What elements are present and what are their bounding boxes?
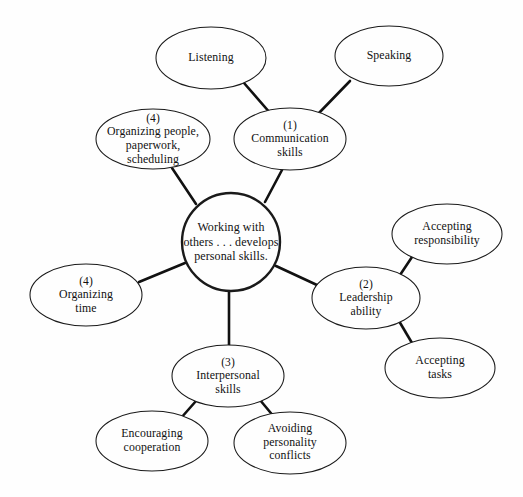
edge-interpersonal-encouraging bbox=[181, 401, 196, 418]
node-shape-accepting-responsibility[interactable] bbox=[392, 204, 502, 264]
diagram-canvas: Working with others . . . develops perso… bbox=[0, 0, 523, 497]
edge-center-organizing-time bbox=[139, 263, 185, 282]
edge-leadership-accepting-tasks bbox=[399, 321, 412, 343]
node-shape-encouraging-cooperation[interactable] bbox=[96, 411, 208, 471]
node-shape-listening[interactable] bbox=[156, 27, 266, 89]
node-shape-avoiding-personality-conflicts[interactable] bbox=[234, 412, 346, 474]
diagram-svg bbox=[0, 0, 523, 497]
edge-leadership-accepting-responsibility bbox=[400, 257, 412, 275]
edge-center-leadership bbox=[276, 266, 317, 285]
node-shape-accepting-tasks[interactable] bbox=[385, 338, 495, 398]
node-shape-organizing-time[interactable] bbox=[30, 264, 142, 326]
node-shape-speaking[interactable] bbox=[335, 26, 443, 86]
edge-communication-speaking bbox=[318, 81, 350, 114]
node-shape-interpersonal-skills[interactable] bbox=[172, 345, 284, 407]
node-shape-communication-skills[interactable] bbox=[234, 108, 346, 170]
edge-communication-listening bbox=[244, 83, 271, 114]
node-shape-organizing-people[interactable] bbox=[96, 109, 210, 169]
node-shape-leadership-ability[interactable] bbox=[312, 267, 420, 329]
node-shape-center[interactable] bbox=[182, 193, 280, 291]
edge-center-communication bbox=[265, 170, 282, 202]
edge-center-organizing-people bbox=[172, 168, 196, 204]
